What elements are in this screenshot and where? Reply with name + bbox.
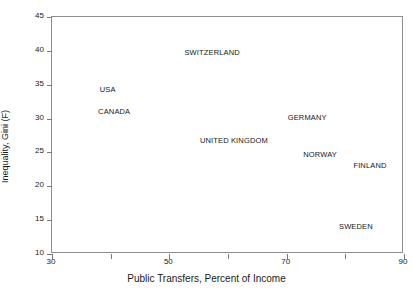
x-tick-label-70: 70: [281, 258, 290, 266]
y-tick-label-15: 15: [35, 215, 44, 223]
data-label-switzerland: SWITZERLAND: [184, 49, 239, 57]
y-tick-45: [47, 17, 52, 18]
x-axis-title: Public Transfers, Percent of Income: [0, 273, 413, 284]
x-tick-label-30: 30: [47, 258, 56, 266]
y-tick-label-45: 45: [35, 12, 44, 20]
y-tick-30: [47, 119, 52, 120]
x-tick-label-50: 50: [164, 258, 173, 266]
y-tick-35: [47, 85, 52, 86]
plot-area: SWITZERLANDUSACANADAGERMANYUNITED KINGDO…: [51, 16, 403, 253]
y-tick-label-40: 40: [35, 46, 44, 54]
data-label-germany: GERMANY: [288, 114, 327, 122]
y-tick-20: [47, 186, 52, 187]
data-label-sweden: SWEDEN: [339, 223, 373, 231]
y-tick-15: [47, 220, 52, 221]
x-axis-tick-labels: 30507090: [0, 258, 413, 272]
data-label-norway: NORWAY: [303, 151, 337, 159]
y-tick-40: [47, 51, 52, 52]
x-tick-label-90: 90: [399, 258, 408, 266]
y-tick-label-25: 25: [35, 147, 44, 155]
y-tick-label-10: 10: [35, 249, 44, 257]
data-label-usa: USA: [100, 86, 116, 94]
y-tick-label-20: 20: [35, 181, 44, 189]
data-label-united-kingdom: UNITED KINGDOM: [200, 137, 268, 145]
y-tick-label-30: 30: [35, 114, 44, 122]
data-label-finland: FINLAND: [353, 162, 386, 170]
y-tick-label-35: 35: [35, 80, 44, 88]
y-tick-25: [47, 152, 52, 153]
y-axis-title: Inequality, Gini (F): [0, 0, 14, 293]
scatter-chart: SWITZERLANDUSACANADAGERMANYUNITED KINGDO…: [0, 0, 413, 293]
data-label-canada: CANADA: [98, 108, 130, 116]
